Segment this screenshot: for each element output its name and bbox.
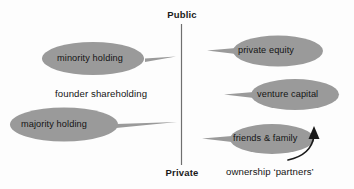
blob-label-majority-holding: majority holding: [21, 119, 87, 129]
blob-private-equity-tail: [207, 48, 236, 54]
blob-friends-family-tail: [202, 136, 232, 142]
blob-majority-holding-tail: [116, 122, 177, 128]
blob-minority-holding-tail: [145, 57, 176, 63]
axis-label-private: Private: [160, 167, 204, 178]
blob-venture-capital-tail: [224, 92, 254, 98]
label-ownership-partners: ownership ‘partners’: [226, 166, 314, 177]
blob-label-friends-family: friends & family: [233, 133, 297, 143]
ownership-partners-arrow-head: [309, 126, 320, 139]
blob-label-private-equity: private equity: [238, 45, 294, 55]
ownership-spectrum-diagram: Public Private minority holding majority…: [0, 0, 354, 189]
blob-label-venture-capital: venture capital: [257, 89, 318, 99]
blob-label-minority-holding: minority holding: [57, 53, 123, 63]
axis-label-public: Public: [160, 9, 204, 20]
label-founder-shareholding: founder shareholding: [55, 88, 147, 99]
